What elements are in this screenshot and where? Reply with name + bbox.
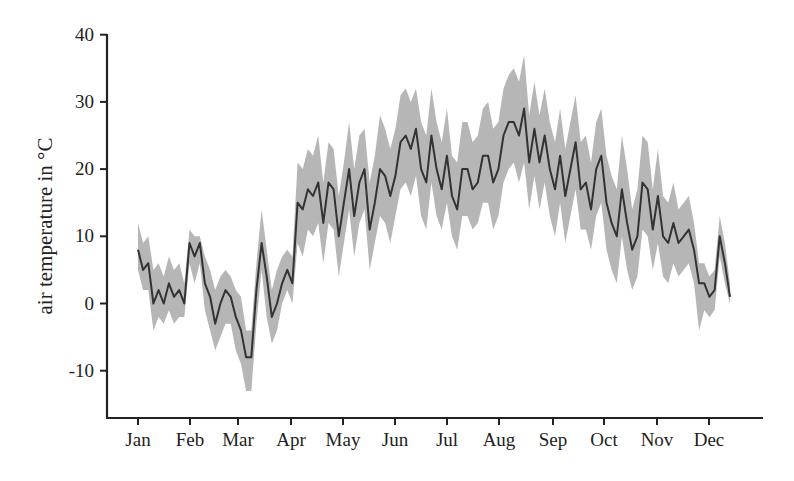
temperature-chart: 403020100-10 JanFebMarAprMayJunJulAugSep…	[0, 0, 794, 481]
y-tick-label: 10	[75, 225, 94, 246]
y-axis-title: air temperature in °C	[33, 138, 57, 315]
x-tick-label-oct: Oct	[590, 429, 618, 450]
x-tick-label-feb: Feb	[176, 429, 205, 450]
x-tick-label-mar: Mar	[222, 429, 254, 450]
y-tick-label: 40	[75, 24, 94, 45]
x-tick-label-dec: Dec	[694, 429, 725, 450]
x-tick-label-jun: Jun	[382, 429, 409, 450]
y-tick-label: 30	[75, 91, 94, 112]
y-tick-label: -10	[69, 360, 94, 381]
y-axis-ticks: 403020100-10	[69, 24, 107, 381]
temperature-range-band	[138, 55, 730, 391]
band-polygon	[138, 55, 730, 391]
chart-canvas: 403020100-10 JanFebMarAprMayJunJulAugSep…	[0, 0, 794, 481]
x-tick-label-nov: Nov	[641, 429, 674, 450]
x-tick-label-jul: Jul	[436, 429, 458, 450]
y-tick-label: 0	[85, 293, 95, 314]
x-tick-label-apr: Apr	[276, 429, 306, 450]
y-tick-label: 20	[75, 158, 94, 179]
x-tick-label-aug: Aug	[483, 429, 516, 450]
x-tick-label-jan: Jan	[125, 429, 151, 450]
x-axis-ticks: JanFebMarAprMayJunJulAugSepOctNovDec	[125, 418, 724, 450]
x-tick-label-sep: Sep	[539, 429, 568, 450]
x-tick-label-may: May	[326, 429, 361, 450]
